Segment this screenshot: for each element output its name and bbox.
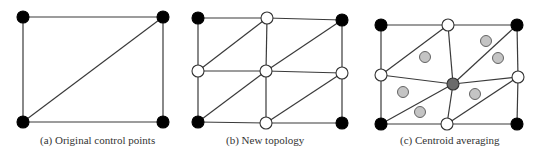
mesh-edge	[266, 20, 342, 71]
mesh-edge	[266, 18, 267, 71]
centroid-point	[415, 107, 426, 118]
centroid-point	[420, 52, 431, 63]
black-control-point	[511, 118, 523, 130]
white-control-point	[375, 69, 387, 81]
white-control-point	[261, 12, 273, 24]
mesh-edge	[381, 75, 453, 84]
black-control-point	[375, 19, 387, 31]
mesh-edge	[448, 25, 453, 84]
mesh-edge	[198, 122, 266, 123]
white-control-point	[512, 71, 524, 83]
white-control-point	[441, 118, 453, 130]
caption-centroid-averaging: (c) Centroid averaging	[400, 134, 500, 146]
mesh-edge	[381, 84, 453, 124]
black-control-point	[336, 117, 348, 129]
centroid-point	[493, 53, 504, 64]
panel-a	[17, 11, 169, 128]
mesh-edge	[23, 17, 163, 122]
mesh-edge	[453, 25, 517, 84]
black-control-point	[17, 116, 29, 128]
mesh-edge	[517, 25, 518, 77]
black-control-point	[192, 116, 204, 128]
black-control-point	[375, 118, 387, 130]
black-control-point	[336, 14, 348, 26]
black-control-point	[511, 19, 523, 31]
mesh-edge	[266, 73, 342, 123]
caption-new-topology: (b) New topology	[226, 134, 304, 146]
black-control-point	[192, 12, 204, 24]
mesh-edge	[381, 25, 448, 75]
caption-original-control-points: (a) Original control points	[40, 134, 155, 146]
mesh-edge	[266, 71, 342, 73]
panel-c	[375, 19, 524, 130]
white-control-point	[442, 19, 454, 31]
gray-control-point	[447, 78, 459, 90]
black-control-point	[17, 11, 29, 23]
mesh-edge	[198, 71, 266, 122]
mesh-edge	[517, 77, 518, 124]
centroid-point	[470, 89, 481, 100]
centroid-point	[481, 36, 492, 47]
black-control-point	[157, 11, 169, 23]
mesh-edge	[267, 18, 342, 20]
white-control-point	[260, 117, 272, 129]
white-control-point	[260, 65, 272, 77]
white-control-point	[336, 67, 348, 79]
white-control-point	[192, 65, 204, 77]
panel-b	[192, 12, 348, 129]
mesh-edge	[198, 18, 267, 71]
centroid-point	[398, 87, 409, 98]
black-control-point	[157, 116, 169, 128]
